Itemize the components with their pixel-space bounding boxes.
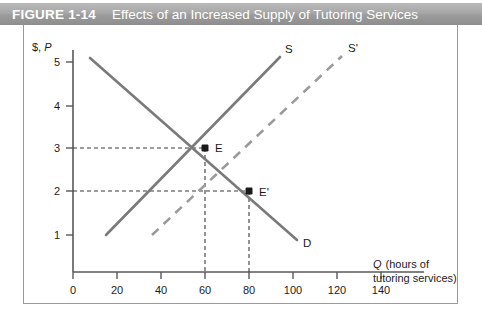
figure-number-label: FIGURE 1-14 — [12, 7, 96, 22]
x-axis-title-line1: Q(hours of — [373, 258, 430, 270]
x-tick-label-20: 20 — [111, 284, 123, 296]
figure-container: FIGURE 1-14 Effects of an Increased Supp… — [0, 0, 482, 319]
x-tick-label-80: 80 — [243, 284, 255, 296]
figure-header-bar: FIGURE 1-14 Effects of an Increased Supp… — [0, 3, 482, 25]
x-axis-title-quantity: Q — [373, 258, 382, 270]
equilibrium-point-E-label: E — [215, 142, 223, 154]
figure-caption-label: Effects of an Increased Supply of Tutori… — [112, 7, 418, 22]
equilibrium-point-E-marker — [202, 145, 209, 152]
x-tick-label-140: 140 — [372, 284, 390, 296]
y-tick-label-5: 5 — [54, 56, 60, 68]
supply-curve-S-prime — [152, 56, 342, 235]
y-tick-label-2: 2 — [54, 185, 60, 197]
equilibrium-point-E-prime-label: E' — [259, 186, 269, 198]
equilibrium-point-E-prime-marker — [246, 188, 253, 195]
x-tick-label-100: 100 — [284, 284, 302, 296]
y-tick-label-4: 4 — [54, 100, 60, 112]
supply-curve-S-prime-label: S' — [348, 42, 358, 54]
supply-curve-S-label: S — [285, 43, 293, 55]
x-tick-label-40: 40 — [155, 284, 167, 296]
supply-curve-S — [106, 57, 280, 235]
x-tick-label-120: 120 — [328, 284, 346, 296]
y-tick-label-3: 3 — [54, 142, 60, 154]
economics-supply-demand-chart: 5 4 3 2 1 0 20 40 60 80 100 120 140 — [24, 25, 459, 304]
x-tick-label-60: 60 — [199, 284, 211, 296]
figure-plot-frame: 5 4 3 2 1 0 20 40 60 80 100 120 140 — [23, 25, 458, 304]
y-axis-title: $,P — [32, 41, 52, 53]
y-axis-title-dollar: $, — [32, 41, 41, 53]
demand-curve-D-label: D — [303, 237, 311, 249]
y-axis-title-price: P — [44, 41, 52, 53]
x-tick-label-0: 0 — [70, 284, 76, 296]
x-axis-title-line2: tutoring services) — [373, 272, 457, 284]
x-axis-title-line1-rest: (hours of — [386, 258, 430, 270]
y-tick-label-1: 1 — [54, 229, 60, 241]
demand-curve-D — [90, 58, 297, 240]
